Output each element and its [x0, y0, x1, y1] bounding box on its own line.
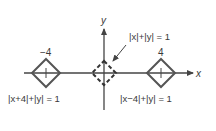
left-diamond-center-label: −4: [40, 47, 52, 58]
left-diamond-equation: |x+4|+|y| = 1: [8, 93, 60, 104]
center-diamond-equation: |x|+|y| = 1: [129, 31, 170, 42]
diagram-canvas: x y −4 4 |x|+|y| = 1 |x+4|+|y| = 1 |x−4|…: [0, 0, 216, 131]
x-axis-label: x: [195, 68, 202, 79]
right-diamond-equation: |x−4|+|y| = 1: [120, 93, 172, 104]
y-axis-label: y: [100, 15, 107, 26]
right-diamond-center-label: 4: [158, 47, 164, 58]
leader-arrow: [113, 45, 126, 61]
